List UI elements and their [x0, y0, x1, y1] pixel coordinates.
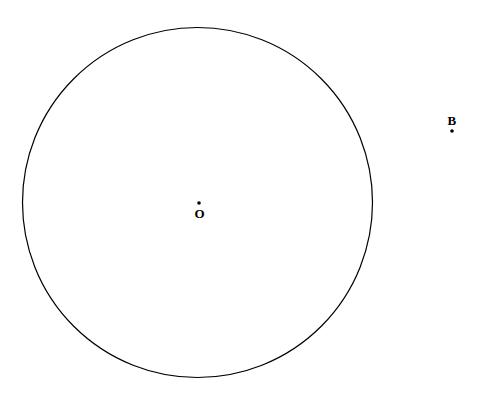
point-b-dot: [450, 129, 454, 133]
figure-background: [0, 0, 483, 395]
geometry-figure-canvas: O B: [0, 0, 483, 395]
point-b-label: B: [448, 114, 457, 127]
point-o-dot: [197, 201, 201, 205]
figure-drawing-surface: [0, 0, 483, 395]
point-o-label: O: [195, 207, 205, 220]
